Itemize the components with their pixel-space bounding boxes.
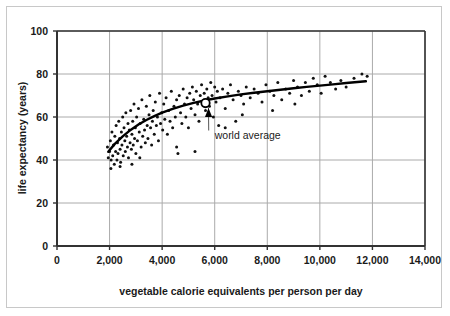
y-tick-label: 0 bbox=[42, 240, 48, 252]
data-point bbox=[111, 154, 114, 157]
data-point bbox=[192, 98, 195, 101]
data-point bbox=[180, 122, 183, 125]
data-point bbox=[215, 100, 218, 103]
data-point bbox=[138, 131, 141, 134]
data-point bbox=[131, 120, 134, 123]
data-point bbox=[110, 159, 113, 162]
data-point bbox=[304, 81, 307, 84]
data-point bbox=[280, 98, 283, 101]
data-point bbox=[324, 75, 327, 78]
tick-labels: 02,0004,0006,0008,00010,00012,00014,0000… bbox=[30, 25, 441, 266]
data-point bbox=[249, 96, 252, 99]
data-point bbox=[155, 124, 158, 127]
data-point bbox=[158, 92, 161, 95]
data-point bbox=[140, 98, 143, 101]
data-point bbox=[272, 94, 275, 97]
x-tick-label: 12,000 bbox=[356, 254, 388, 266]
data-point bbox=[360, 73, 363, 76]
data-point bbox=[146, 124, 149, 127]
data-point bbox=[109, 167, 112, 170]
data-point bbox=[133, 103, 136, 106]
data-point bbox=[190, 107, 193, 110]
data-point bbox=[120, 143, 123, 146]
data-point bbox=[114, 150, 117, 153]
data-point bbox=[179, 111, 182, 114]
data-point bbox=[184, 116, 187, 119]
data-point bbox=[271, 109, 274, 112]
data-point bbox=[148, 94, 151, 97]
data-point bbox=[130, 163, 133, 166]
data-point bbox=[229, 83, 232, 86]
data-point bbox=[226, 92, 229, 95]
data-point bbox=[203, 92, 206, 95]
data-point bbox=[188, 92, 191, 95]
y-tick-label: 40 bbox=[36, 154, 48, 166]
data-point bbox=[171, 126, 174, 129]
x-tick-label: 0 bbox=[54, 254, 60, 266]
data-point bbox=[150, 143, 153, 146]
data-point bbox=[110, 131, 113, 134]
data-point bbox=[308, 90, 311, 93]
data-point bbox=[124, 111, 127, 114]
data-point bbox=[136, 139, 139, 142]
y-tick-label: 80 bbox=[36, 68, 48, 80]
data-point bbox=[253, 88, 256, 91]
data-point bbox=[334, 88, 337, 91]
data-point bbox=[245, 85, 248, 88]
data-point bbox=[209, 81, 212, 84]
data-point bbox=[339, 79, 342, 82]
data-point bbox=[174, 116, 177, 119]
data-point bbox=[200, 83, 203, 86]
data-point bbox=[129, 141, 132, 144]
data-point bbox=[145, 105, 148, 108]
data-point bbox=[288, 92, 291, 95]
data-point bbox=[140, 146, 143, 149]
data-point bbox=[175, 98, 178, 101]
world-average-label: world average bbox=[214, 129, 281, 141]
data-point bbox=[127, 156, 130, 159]
x-tick-label: 10,000 bbox=[304, 254, 336, 266]
data-point bbox=[232, 98, 235, 101]
data-point bbox=[126, 146, 129, 149]
x-tick-label: 6,000 bbox=[202, 254, 228, 266]
data-point bbox=[292, 79, 295, 82]
data-point bbox=[137, 107, 140, 110]
world-average-marker bbox=[201, 99, 209, 107]
data-point bbox=[197, 120, 200, 123]
data-point bbox=[130, 133, 133, 136]
data-point bbox=[366, 75, 369, 78]
data-point bbox=[195, 90, 198, 93]
data-point bbox=[194, 113, 197, 116]
x-tick-label: 8,000 bbox=[254, 254, 280, 266]
data-point bbox=[353, 77, 356, 80]
data-point bbox=[216, 90, 219, 93]
data-point bbox=[162, 103, 165, 106]
chart-figure: world average 02,0004,0006,0008,00010,00… bbox=[0, 0, 450, 316]
data-point bbox=[166, 133, 169, 136]
data-point bbox=[138, 156, 141, 159]
data-point bbox=[234, 120, 237, 123]
data-point bbox=[117, 120, 120, 123]
data-point bbox=[320, 92, 323, 95]
y-tick-label: 20 bbox=[36, 197, 48, 209]
data-point bbox=[143, 128, 146, 131]
data-point bbox=[152, 109, 155, 112]
data-point bbox=[170, 90, 173, 93]
data-point bbox=[264, 83, 267, 86]
data-point bbox=[178, 94, 181, 97]
data-point bbox=[146, 137, 149, 140]
data-point bbox=[119, 161, 122, 164]
data-point bbox=[122, 154, 125, 157]
x-axis-title: vegetable calorie equivalents per person… bbox=[119, 285, 363, 297]
data-point bbox=[107, 156, 110, 159]
data-point bbox=[182, 88, 185, 91]
data-point bbox=[124, 150, 127, 153]
y-tick-label: 100 bbox=[30, 25, 48, 37]
data-point bbox=[148, 113, 151, 116]
data-point bbox=[187, 126, 190, 129]
data-point bbox=[211, 94, 214, 97]
data-point bbox=[153, 133, 156, 136]
data-point bbox=[149, 126, 152, 129]
data-point bbox=[213, 85, 216, 88]
data-point bbox=[130, 148, 133, 151]
